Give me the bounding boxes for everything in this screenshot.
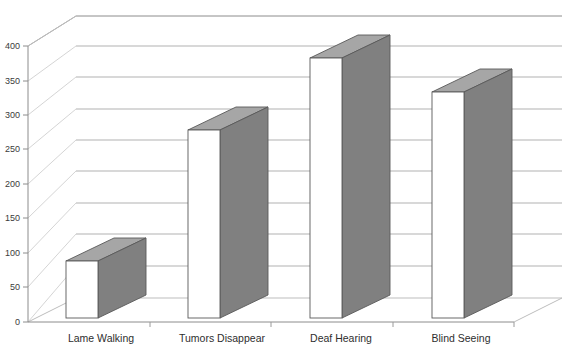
x-category-label-lame-walking: Lame Walking	[68, 332, 134, 344]
y-tick-label: 200	[5, 179, 20, 189]
chart-container: 400 350 300 250 200 150 100 50 0	[0, 0, 562, 359]
y-tick-label: 250	[5, 144, 20, 154]
bar-front-face	[66, 261, 98, 318]
x-category-label-blind-seeing: Blind Seeing	[432, 332, 491, 344]
x-category-label-deaf-hearing: Deaf Hearing	[310, 332, 372, 344]
bar-front-face	[310, 58, 342, 318]
y-tick-label: 400	[5, 41, 20, 51]
y-tick-label: 350	[5, 76, 20, 86]
bar-side-face	[464, 69, 512, 318]
bar-side-face	[220, 107, 268, 318]
y-tick-label: 300	[5, 110, 20, 120]
x-category-label-tumors-disappear: Tumors Disappear	[179, 332, 265, 344]
bar-front-face	[432, 92, 464, 318]
y-tick-label: 0	[15, 317, 20, 327]
bar-deaf-hearing[interactable]	[310, 35, 390, 318]
y-tick-label: 150	[5, 213, 20, 223]
bar-side-face	[342, 35, 390, 318]
bar-tumors-disappear[interactable]	[188, 107, 268, 318]
y-tick-label: 50	[10, 282, 20, 292]
y-tick-label: 100	[5, 248, 20, 258]
bar-blind-seeing[interactable]	[432, 69, 512, 318]
bar-chart: 400 350 300 250 200 150 100 50 0	[0, 0, 562, 359]
bar-front-face	[188, 130, 220, 318]
